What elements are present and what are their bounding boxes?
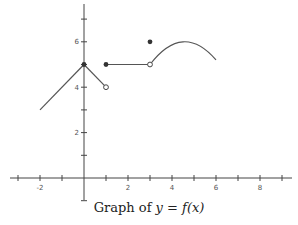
x-tick-label: 4 — [170, 184, 175, 192]
caption-prefix: Graph of — [94, 200, 156, 215]
open-point — [148, 62, 153, 67]
y-tick-label: 6 — [75, 38, 80, 46]
closed-point — [82, 62, 87, 67]
y-tick-label: 4 — [75, 84, 80, 92]
function-graph: -22468246 — [0, 0, 298, 225]
x-tick-label: 6 — [214, 184, 219, 192]
graph-curve — [150, 42, 216, 65]
caption-expression: y = f(x) — [156, 200, 205, 215]
closed-point — [104, 62, 109, 67]
x-tick-label: 2 — [126, 184, 130, 192]
y-tick-label: 2 — [75, 129, 79, 137]
open-point — [104, 85, 109, 90]
graph-segment — [84, 65, 106, 88]
x-tick-label: -2 — [37, 184, 44, 192]
x-tick-label: 8 — [258, 184, 262, 192]
graph-caption: Graph of y = f(x) — [0, 200, 298, 215]
closed-point — [148, 39, 153, 44]
